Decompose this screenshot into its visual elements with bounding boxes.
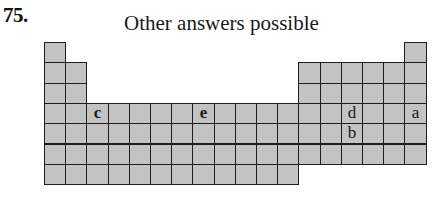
element-cell-r3-c13 [298, 83, 320, 104]
element-cell-r3-c18 [404, 83, 426, 104]
element-cell-r5-c15: b [341, 123, 363, 144]
element-cell-r4-c9 [214, 103, 236, 124]
element-cell-r2-c18 [404, 62, 426, 83]
element-cell-r5-c14 [320, 123, 342, 144]
element-cell-r6-c16 [362, 144, 384, 165]
element-cell-r6-c15 [341, 144, 363, 165]
element-cell-r7-c2 [65, 164, 87, 185]
periodic-table-grid: cedab [0, 0, 445, 197]
element-cell-r2-c17 [383, 62, 405, 83]
element-cell-r4-c12 [277, 103, 299, 124]
cell-label-b: b [342, 123, 362, 143]
element-cell-r5-c2 [65, 123, 87, 144]
element-cell-r4-c8: e [192, 103, 214, 124]
element-cell-r4-c16 [362, 103, 384, 124]
element-cell-r5-c11 [256, 123, 278, 144]
element-cell-r6-c17 [383, 144, 405, 165]
element-cell-r5-c3 [86, 123, 108, 144]
element-cell-r5-c13 [298, 123, 320, 144]
element-cell-r6-c6 [150, 144, 172, 165]
element-cell-r7-c7 [171, 164, 193, 185]
element-cell-r3-c15 [341, 83, 363, 104]
element-cell-r4-c7 [171, 103, 193, 124]
element-cell-r6-c10 [235, 144, 257, 165]
element-cell-r2-c16 [362, 62, 384, 83]
element-cell-r2-c13 [298, 62, 320, 83]
element-cell-r7-c1 [44, 164, 66, 185]
element-cell-r5-c5 [129, 123, 151, 144]
element-cell-r4-c1 [44, 103, 66, 124]
element-cell-r6-c12 [277, 144, 299, 165]
element-cell-r7-c8 [192, 164, 214, 185]
element-cell-r4-c10 [235, 103, 257, 124]
element-cell-r4-c2 [65, 103, 87, 124]
element-cell-r7-c12 [277, 164, 299, 185]
element-cell-r4-c11 [256, 103, 278, 124]
element-cell-r6-c18 [404, 144, 426, 165]
element-cell-r3-c1 [44, 83, 66, 104]
element-cell-r2-c1 [44, 62, 66, 83]
element-cell-r6-c3 [86, 144, 108, 165]
element-cell-r4-c14 [320, 103, 342, 124]
element-cell-r7-c4 [108, 164, 130, 185]
element-cell-r6-c5 [129, 144, 151, 165]
element-cell-r3-c17 [383, 83, 405, 104]
element-cell-r6-c4 [108, 144, 130, 165]
cell-label-d: d [342, 103, 362, 123]
element-cell-r2-c2 [65, 62, 87, 83]
element-cell-r3-c16 [362, 83, 384, 104]
element-cell-r3-c2 [65, 83, 87, 104]
element-cell-r4-c3: c [86, 103, 108, 124]
element-cell-r6-c1 [44, 144, 66, 165]
element-cell-r6-c2 [65, 144, 87, 165]
cell-label-c: c [87, 103, 107, 123]
element-cell-r5-c8 [192, 123, 214, 144]
element-cell-r5-c7 [171, 123, 193, 144]
element-cell-r6-c11 [256, 144, 278, 165]
element-cell-r4-c6 [150, 103, 172, 124]
element-cell-r5-c6 [150, 123, 172, 144]
element-cell-r2-c15 [341, 62, 363, 83]
element-cell-r6-c7 [171, 144, 193, 165]
element-cell-r6-c8 [192, 144, 214, 165]
element-cell-r5-c12 [277, 123, 299, 144]
element-cell-r5-c17 [383, 123, 405, 144]
cell-label-a: a [405, 103, 425, 123]
element-cell-r7-c10 [235, 164, 257, 185]
element-cell-r1-c18 [404, 42, 426, 63]
element-cell-r6-c14 [320, 144, 342, 165]
element-cell-r6-c9 [214, 144, 236, 165]
element-cell-r4-c18: a [404, 103, 426, 124]
element-cell-r4-c13 [298, 103, 320, 124]
element-cell-r5-c1 [44, 123, 66, 144]
element-cell-r4-c5 [129, 103, 151, 124]
element-cell-r7-c5 [129, 164, 151, 185]
element-cell-r6-c13 [298, 144, 320, 165]
element-cell-r4-c4 [108, 103, 130, 124]
element-cell-r5-c4 [108, 123, 130, 144]
element-cell-r5-c18 [404, 123, 426, 144]
element-cell-r5-c10 [235, 123, 257, 144]
element-cell-r7-c6 [150, 164, 172, 185]
element-cell-r7-c9 [214, 164, 236, 185]
element-cell-r5-c9 [214, 123, 236, 144]
element-cell-r7-c11 [256, 164, 278, 185]
element-cell-r3-c14 [320, 83, 342, 104]
element-cell-r5-c16 [362, 123, 384, 144]
element-cell-r4-c15: d [341, 103, 363, 124]
element-cell-r2-c14 [320, 62, 342, 83]
element-cell-r7-c3 [86, 164, 108, 185]
element-cell-r1-c1 [44, 42, 66, 63]
cell-label-e: e [193, 103, 213, 123]
element-cell-r4-c17 [383, 103, 405, 124]
